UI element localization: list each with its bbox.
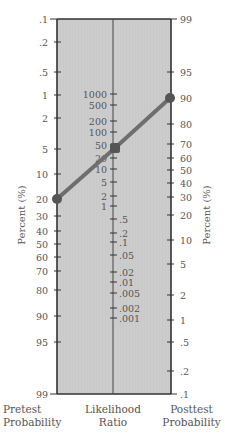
right-tick-label: .2 (180, 366, 189, 377)
center-tick-label: .05 (119, 250, 134, 261)
pretest-label-line1: Pretest (3, 403, 63, 416)
center-tick-label: 1000 (83, 89, 107, 100)
center-tick-label: 100 (89, 127, 107, 138)
center-tick-label: .5 (119, 214, 128, 225)
posttest-marker (165, 93, 175, 103)
right-tick-label: 95 (180, 67, 192, 78)
center-tick-label: .005 (119, 288, 140, 299)
left-tick-label: .2 (39, 37, 48, 48)
fagan-nomogram: .1.2.51251020304050607080909599 10005002… (0, 0, 225, 445)
pretest-probability-label: Pretest Probability (0, 403, 63, 429)
center-tick-label: .001 (119, 313, 140, 324)
left-tick-label: 99 (36, 389, 48, 400)
right-tick-label: 70 (180, 139, 192, 150)
center-tick-label: 200 (89, 116, 107, 127)
right-tick-label: 1 (180, 315, 186, 326)
right-tick-label: 80 (180, 119, 192, 130)
right-tick-label: 50 (180, 165, 192, 176)
center-tick-label: .01 (119, 277, 134, 288)
right-axis-title: Percent (%) (201, 185, 212, 245)
center-tick-label: .1 (119, 237, 128, 248)
pretest-marker (52, 194, 62, 204)
center-tick-label: 500 (89, 100, 107, 111)
left-tick-label: 70 (36, 266, 48, 277)
right-tick-label: 90 (180, 93, 192, 104)
left-tick-label: 5 (42, 144, 48, 155)
left-axis-title: Percent (%) (16, 185, 27, 245)
left-tick-label: .1 (39, 14, 48, 25)
left-tick-label: 1 (42, 90, 48, 101)
left-tick-label: .5 (39, 67, 48, 78)
left-tick-label: 60 (36, 252, 48, 263)
right-tick-label: 10 (180, 235, 192, 246)
right-tick-label: 2 (180, 290, 186, 301)
right-tick-label: .1 (180, 389, 189, 400)
likelihood-ratio-marker (110, 143, 120, 153)
left-tick-label: 80 (36, 285, 48, 296)
left-tick-label: 90 (36, 311, 48, 322)
likelihood-label-line2: Ratio (78, 416, 148, 429)
center-tick-label: 50 (95, 140, 107, 151)
center-tick-label: 5 (101, 177, 107, 188)
left-tick-label: 30 (36, 211, 48, 222)
left-tick-label: 95 (36, 337, 48, 348)
left-tick-label: 40 (36, 226, 48, 237)
right-tick-label: 60 (180, 153, 192, 164)
likelihood-label-line1: Likelihood (78, 403, 148, 416)
right-tick-label: 5 (180, 259, 186, 270)
posttest-probability-label: Posttest Probability (158, 403, 225, 429)
left-tick-label: 20 (36, 194, 48, 205)
right-tick-label: 30 (180, 192, 192, 203)
left-tick-label: 2 (42, 113, 48, 124)
posttest-label-line2: Probability (158, 416, 225, 429)
left-tick-label: 10 (36, 169, 48, 180)
center-tick-label: 1 (101, 201, 107, 212)
right-tick-label: 99 (180, 14, 192, 25)
right-tick-label: 40 (180, 178, 192, 189)
left-tick-label: 50 (36, 239, 48, 250)
pretest-label-line2: Probability (3, 416, 63, 429)
posttest-label-line1: Posttest (158, 403, 225, 416)
right-tick-label: 20 (180, 210, 192, 221)
right-tick-label: .5 (180, 337, 189, 348)
likelihood-ratio-label: Likelihood Ratio (78, 403, 148, 429)
